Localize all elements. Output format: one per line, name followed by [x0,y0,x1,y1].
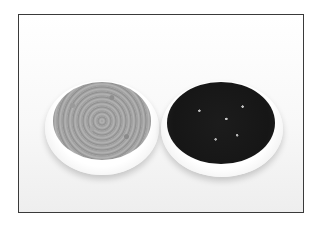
photo-frame [18,14,304,213]
roasted-coffee-beans [167,82,275,164]
roasted-beans-plate [161,81,283,177]
green-coffee-beans [53,82,151,160]
green-beans-plate [45,81,159,175]
